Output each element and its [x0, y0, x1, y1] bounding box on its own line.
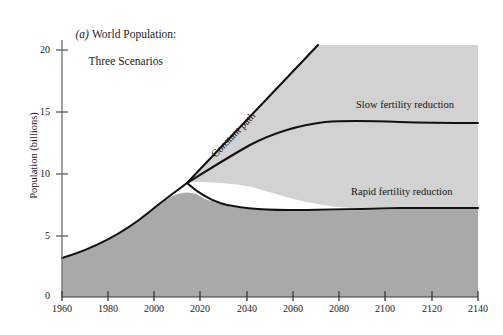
world-population-figure: (a)World Population: Three Scenarios: [0, 0, 503, 335]
x-tick-label-2120: 2120: [412, 303, 452, 314]
y-tick-label-0: 0: [28, 290, 50, 301]
y-tick-label-5: 5: [28, 230, 50, 241]
figure-title-line2: Three Scenarios: [89, 55, 163, 67]
curve-label-slow-fertility-reduction: Slow fertility reduction: [356, 99, 454, 110]
x-tick-label-2040: 2040: [227, 303, 267, 314]
figure-tag: (a): [76, 28, 89, 40]
x-tick-label-1960: 1960: [42, 303, 82, 314]
y-tick-label-10: 10: [28, 168, 50, 179]
y-tick-label-15: 15: [28, 106, 50, 117]
x-tick-label-2000: 2000: [134, 303, 174, 314]
x-tick-label-2060: 2060: [273, 303, 313, 314]
y-tick-label-20: 20: [28, 44, 50, 55]
x-tick-label-2080: 2080: [319, 303, 359, 314]
figure-title: (a)World Population: Three Scenarios: [64, 14, 176, 82]
y-axis-title: Population (billions): [28, 76, 39, 236]
curve-label-rapid-fertility-reduction: Rapid fertility reduction: [351, 186, 452, 197]
x-tick-label-2100: 2100: [365, 303, 405, 314]
x-tick-label-2140: 2140: [458, 303, 498, 314]
x-tick-label-1980: 1980: [88, 303, 128, 314]
x-tick-label-2020: 2020: [180, 303, 220, 314]
figure-title-line1: World Population:: [92, 28, 176, 40]
